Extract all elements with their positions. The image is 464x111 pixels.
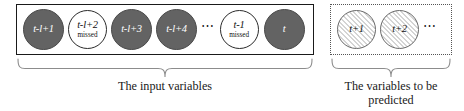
node-label: t-1 <box>234 20 245 31</box>
node-t-minus-l-plus-2-missed: t-l+2 missed <box>68 10 107 49</box>
node-sublabel: missed <box>229 32 249 39</box>
figure-canvas: t-l+1 t-l+2 missed t-l+3 t-l+4 ⋯ t-1 mis… <box>0 0 464 111</box>
input-ellipsis: ⋯ <box>197 18 220 41</box>
node-label: t-l+1 <box>33 24 54 35</box>
node-t-minus-l-plus-4: t-l+4 <box>156 9 197 50</box>
predicted-variables-box: t+1 t+2 ⋯ <box>330 4 452 55</box>
node-label: t-l+3 <box>121 24 142 35</box>
node-t-plus-2: t+2 <box>380 10 419 49</box>
node-t-minus-l-plus-1: t-l+1 <box>23 9 64 50</box>
caption-line: The variables to be <box>326 80 456 94</box>
node-label: t-l+4 <box>166 24 187 35</box>
input-brace <box>16 58 314 78</box>
predict-caption: The variables to be predicted <box>326 80 456 107</box>
node-label: t-l+2 <box>77 20 98 31</box>
node-sublabel: missed <box>78 32 98 39</box>
predict-ellipsis: ⋯ <box>419 18 442 41</box>
input-variables-box: t-l+1 t-l+2 missed t-l+3 t-l+4 ⋯ t-1 mis… <box>16 4 314 55</box>
node-t-plus-1: t+1 <box>337 10 376 49</box>
input-caption: The input variables <box>16 80 314 94</box>
node-t-minus-1-missed: t-1 missed <box>220 10 259 49</box>
node-t-minus-l-plus-3: t-l+3 <box>111 9 152 50</box>
node-t: t <box>264 9 305 50</box>
node-label: t+1 <box>349 24 364 35</box>
predict-brace <box>330 58 452 78</box>
node-label: t <box>283 24 286 35</box>
caption-line: The input variables <box>16 80 314 94</box>
caption-line: predicted <box>326 94 456 108</box>
node-label: t+2 <box>392 24 407 35</box>
